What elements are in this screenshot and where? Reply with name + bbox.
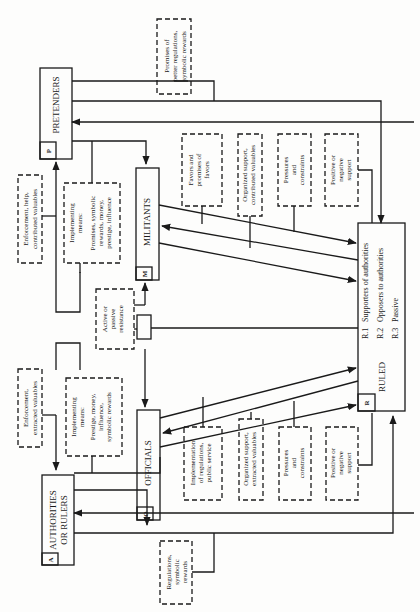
svg-text:Favors and: Favors and bbox=[187, 154, 195, 185]
svg-text:R.2: R.2 bbox=[376, 328, 385, 339]
ruled-subgroup-opposers: Opposers to authorities bbox=[376, 248, 385, 322]
svg-text:Prestige, money,: Prestige, money, bbox=[89, 394, 97, 441]
svg-text:rewards: rewards bbox=[181, 561, 189, 583]
ruled-subgroup-supporters: Supporters of authorities bbox=[361, 243, 370, 322]
svg-text:symbolic rewards: symbolic rewards bbox=[105, 392, 113, 442]
svg-text:extracted valuables: extracted valuables bbox=[250, 432, 258, 486]
svg-text:symbolic rewards: symbolic rewards bbox=[180, 31, 188, 81]
svg-text:symbolic: symbolic bbox=[173, 559, 181, 585]
svg-text:Implementing: Implementing bbox=[70, 397, 78, 437]
svg-text:and: and bbox=[290, 457, 298, 468]
svg-text:R: R bbox=[363, 400, 371, 406]
svg-text:Enforcement,: Enforcement, bbox=[22, 389, 30, 427]
svg-text:O: O bbox=[142, 511, 150, 517]
svg-text:R.1: R.1 bbox=[361, 328, 370, 339]
svg-text:public service: public service bbox=[205, 443, 213, 482]
svg-text:Enforcement, help,: Enforcement, help, bbox=[22, 192, 30, 246]
svg-text:favors: favors bbox=[203, 161, 211, 179]
svg-text:Pressures: Pressures bbox=[282, 450, 290, 477]
svg-text:Active or: Active or bbox=[101, 305, 109, 332]
authorities-box bbox=[42, 475, 74, 565]
svg-text:negative: negative bbox=[337, 158, 345, 182]
svg-text:Pressures: Pressures bbox=[282, 157, 290, 184]
political-system-diagram: AUTHORITIES OR RULERS A OFFICIALS O MILI… bbox=[0, 0, 420, 612]
svg-text:Organized support,: Organized support, bbox=[242, 432, 250, 486]
svg-text:influence,: influence, bbox=[97, 403, 105, 431]
svg-text:support: support bbox=[345, 452, 353, 473]
svg-text:contributed valuables: contributed valuables bbox=[249, 145, 257, 205]
svg-text:promises of: promises of bbox=[195, 153, 203, 187]
svg-text:means:: means: bbox=[78, 407, 86, 427]
svg-text:better regulations,: better regulations, bbox=[171, 30, 179, 81]
svg-text:M: M bbox=[141, 270, 149, 277]
svg-text:Implementation: Implementation bbox=[189, 440, 197, 485]
svg-text:Organized support,: Organized support, bbox=[241, 148, 249, 202]
pretenders-label: PRETENDERS bbox=[51, 76, 61, 133]
svg-text:resistance: resistance bbox=[117, 305, 125, 333]
svg-text:Positive or: Positive or bbox=[329, 447, 337, 478]
officials-label: OFFICIALS bbox=[143, 440, 153, 486]
svg-text:P: P bbox=[45, 148, 53, 153]
svg-text:and: and bbox=[290, 164, 298, 175]
svg-text:Promises, symbolic: Promises, symbolic bbox=[89, 196, 97, 251]
svg-text:passive: passive bbox=[109, 309, 117, 330]
militants-label: MILITANTS bbox=[142, 198, 152, 246]
svg-text:of regulations,: of regulations, bbox=[197, 443, 205, 484]
ruled-label: RULED bbox=[377, 362, 387, 392]
authorities-code: A bbox=[47, 557, 55, 562]
svg-text:Implementing: Implementing bbox=[68, 203, 76, 243]
svg-text:OR RULERS: OR RULERS bbox=[59, 495, 69, 544]
authorities-label: AUTHORITIES bbox=[48, 490, 58, 550]
svg-text:R.3: R.3 bbox=[391, 328, 400, 339]
svg-text:rewards, money,: rewards, money, bbox=[97, 200, 105, 246]
svg-text:negative: negative bbox=[337, 451, 345, 475]
svg-text:Positive or: Positive or bbox=[329, 154, 337, 185]
svg-text:prestige, influence: prestige, influence bbox=[105, 197, 113, 249]
svg-text:extracted valuables: extracted valuables bbox=[31, 381, 39, 435]
svg-text:constraints: constraints bbox=[298, 155, 306, 186]
svg-text:Regulations,: Regulations, bbox=[165, 554, 173, 589]
svg-text:Promises of: Promises of bbox=[163, 39, 171, 73]
svg-text:contributed valuables: contributed valuables bbox=[31, 189, 39, 249]
svg-text:support: support bbox=[345, 159, 353, 180]
svg-text:constraints: constraints bbox=[298, 448, 306, 479]
ruled-subgroup-passive: Passive bbox=[391, 298, 400, 322]
svg-text:means:: means: bbox=[76, 213, 84, 233]
